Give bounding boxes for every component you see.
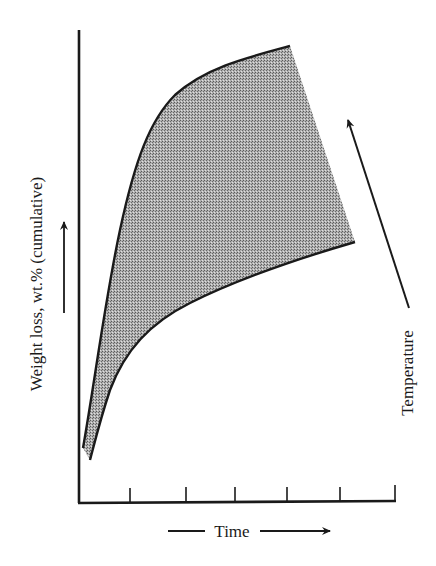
x-axis-label: Time: [214, 522, 249, 541]
shaded-band: [83, 46, 355, 460]
x-axis: [78, 501, 396, 503]
temperature-label: Temperature: [398, 330, 417, 416]
diagram-canvas: Weight loss, wt.% (cumulative) Time Temp…: [0, 0, 436, 566]
y-axis-label: Weight loss, wt.% (cumulative): [27, 177, 46, 391]
temperature-arrow-icon: [348, 120, 409, 308]
x-ticks: [130, 485, 395, 502]
